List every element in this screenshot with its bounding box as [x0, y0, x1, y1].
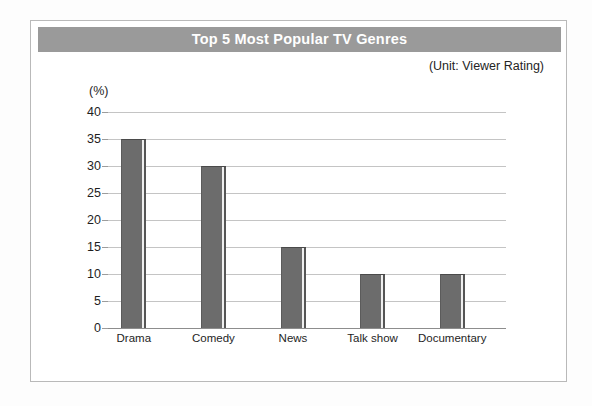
- gridline: [108, 166, 506, 167]
- y-axis-tick-mark: [102, 328, 108, 329]
- bar: [360, 274, 385, 328]
- bar: [281, 247, 306, 328]
- gridline: [108, 247, 506, 248]
- bar-right-edge: [304, 248, 306, 328]
- bar: [440, 274, 465, 328]
- y-axis-tick-label: 40: [87, 105, 101, 119]
- y-axis-tick-mark: [102, 166, 108, 167]
- y-axis-tick-mark: [102, 247, 108, 248]
- bar-right-edge: [383, 275, 385, 328]
- chart-title-banner: Top 5 Most Popular TV Genres: [38, 27, 561, 52]
- x-axis-category-label: Documentary: [418, 332, 486, 344]
- y-axis-tick-label: 0: [94, 321, 101, 335]
- y-axis-tick-mark: [102, 301, 108, 302]
- x-axis-category-label: Comedy: [192, 332, 235, 344]
- x-axis-category-label: Talk show: [347, 332, 398, 344]
- y-axis-tick-label: 20: [87, 213, 101, 227]
- y-axis-unit-label: (%): [89, 84, 108, 98]
- plot-area: 0510152025303540DramaComedyNewsTalk show…: [108, 112, 506, 328]
- y-axis-tick-mark: [102, 112, 108, 113]
- bar-right-edge: [224, 167, 226, 328]
- bar-right-edge: [463, 275, 465, 328]
- bar-right-edge: [144, 140, 146, 328]
- y-axis-tick-mark: [102, 220, 108, 221]
- gridline: [108, 220, 506, 221]
- y-axis-tick-label: 10: [87, 267, 101, 281]
- gridline: [108, 112, 506, 113]
- chart-frame: Top 5 Most Popular TV Genres (Unit: View…: [30, 20, 567, 382]
- scanned-page: Top 5 Most Popular TV Genres (Unit: View…: [0, 0, 592, 406]
- chart-title: Top 5 Most Popular TV Genres: [38, 27, 561, 52]
- y-axis-tick-label: 25: [87, 186, 101, 200]
- gridline: [108, 139, 506, 140]
- y-axis-tick-mark: [102, 274, 108, 275]
- y-axis-tick-label: 15: [87, 240, 101, 254]
- y-axis-tick-label: 35: [87, 132, 101, 146]
- y-axis-tick-mark: [102, 139, 108, 140]
- y-axis-tick-mark: [102, 193, 108, 194]
- y-axis-tick-label: 5: [94, 294, 101, 308]
- chart-unit-note: (Unit: Viewer Rating): [429, 59, 544, 73]
- x-axis-line: [108, 328, 506, 329]
- bar: [201, 166, 226, 328]
- gridline: [108, 193, 506, 194]
- x-axis-category-label: News: [279, 332, 308, 344]
- x-axis-category-label: Drama: [117, 332, 152, 344]
- bar: [121, 139, 146, 328]
- y-axis-tick-label: 30: [87, 159, 101, 173]
